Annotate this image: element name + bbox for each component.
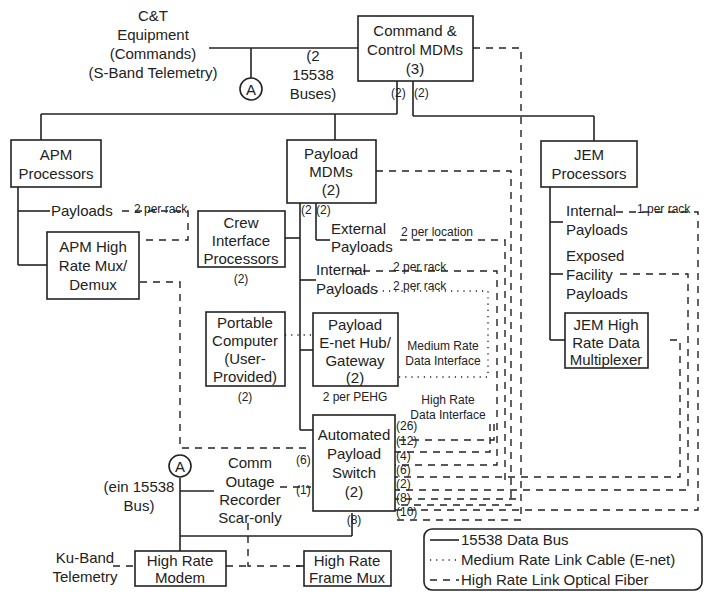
pmdm-line-1: Payload xyxy=(304,145,358,162)
pc-line-4: Provided) xyxy=(213,368,277,385)
pehg-box[interactable]: Payload E-net Hub/ Gateway (2) xyxy=(313,313,398,386)
svg-text:(8): (8) xyxy=(396,491,411,505)
medium-rate-line-1: Medium Rate xyxy=(407,339,479,353)
per-rack-2-label: 2 per rack xyxy=(393,279,447,293)
svg-text:Outage: Outage xyxy=(225,473,274,490)
svg-text:Telemetry: Telemetry xyxy=(52,568,118,585)
svg-text:Recorder: Recorder xyxy=(219,491,281,508)
crew-count-label: (2) xyxy=(234,272,249,286)
fmux-line-1: High Rate xyxy=(314,552,381,569)
svg-text:(Commands): (Commands) xyxy=(110,45,197,62)
aps-port-6-label: (6) xyxy=(296,453,311,467)
jem-exposed-line-3: Payloads xyxy=(566,285,628,302)
crew-interface-box[interactable]: Crew Interface Processors xyxy=(198,211,285,267)
pehg-line-2: E-net Hub/ xyxy=(319,334,392,351)
jem-internal-line-2: Payloads xyxy=(566,221,628,238)
cc-right-count: (2) xyxy=(414,86,429,100)
external-payloads-line-2: Payloads xyxy=(331,238,393,255)
pc-line-3: (User- xyxy=(224,350,266,367)
internal-payloads-line-1: Internal xyxy=(316,261,366,278)
fmux-line-2: Frame Mux xyxy=(309,569,385,586)
apm-mux-line-3: Demux xyxy=(69,276,117,293)
jem-line-2: Processors xyxy=(551,165,626,182)
modem-line-1: High Rate xyxy=(147,552,214,569)
crew-line-1: Crew xyxy=(223,214,258,231)
aps-right-ports: (26) (12) (4) (6) (2) (8) (10) xyxy=(396,419,417,519)
pc-line-2: Computer xyxy=(212,332,278,349)
pmdm-right-count: (2) xyxy=(316,203,331,217)
cc-left-count: (2) xyxy=(391,86,406,100)
aps-line-2: Payload xyxy=(327,445,381,462)
cc-mdms-line-1: Command & xyxy=(373,22,456,39)
jem-exposed-line-1: Exposed xyxy=(566,247,624,264)
svg-text:Comm: Comm xyxy=(228,454,272,471)
svg-text:A: A xyxy=(246,81,256,98)
bus-note-label: (2 15538 Buses) xyxy=(290,47,337,102)
aps-box[interactable]: Automated Payload Switch (2) xyxy=(313,415,395,511)
legend: 15538 Data Bus Medium Rate Link Cable (E… xyxy=(424,529,702,590)
svg-text:(26): (26) xyxy=(396,419,417,433)
jem-hrdm-line-3: Multiplexer xyxy=(570,351,643,368)
apm-line-2: Processors xyxy=(18,165,93,182)
svg-text:Buses): Buses) xyxy=(290,85,337,102)
apm-line-1: APM xyxy=(40,146,73,163)
jem-exposed-line-2: Facility xyxy=(566,266,613,283)
svg-text:(6): (6) xyxy=(396,463,411,477)
apm-processors-box[interactable]: APM Processors xyxy=(11,140,101,187)
hr-frame-mux-box[interactable]: High Rate Frame Mux xyxy=(304,551,391,586)
pmdm-left-count: (2 xyxy=(301,203,312,217)
per-location-label: 2 per location xyxy=(401,225,473,239)
cc-mdms-line-3: (3) xyxy=(406,60,424,77)
connector-a-top: A xyxy=(240,78,262,100)
crew-line-3: Processors xyxy=(203,250,278,267)
high-rate-line-1: High Rate xyxy=(421,393,475,407)
cc-mdms-box[interactable]: Command & Control MDMs (3) xyxy=(358,16,473,81)
svg-text:Scar-only: Scar-only xyxy=(218,509,282,526)
cc-mdms-line-2: Control MDMs xyxy=(367,41,463,58)
pmdm-line-2: MDMs xyxy=(309,163,352,180)
jem-internal-line-1: Internal xyxy=(566,202,616,219)
bus-lines xyxy=(18,48,594,552)
apm-per-rack-label: 2 per rack xyxy=(134,202,188,216)
svg-text:A: A xyxy=(175,458,185,475)
jem-per-rack-label: 1 per rack xyxy=(637,202,691,216)
svg-text:(10): (10) xyxy=(396,505,417,519)
svg-text:(S-Band Telemetry): (S-Band Telemetry) xyxy=(89,64,218,81)
connector-a-bottom: A xyxy=(169,455,191,477)
network-diagram: Command & Control MDMs (3) APM Processor… xyxy=(0,0,706,600)
svg-text:(ein 15538: (ein 15538 xyxy=(104,478,175,495)
svg-text:Ku-Band: Ku-Band xyxy=(56,549,114,566)
svg-text:Equipment: Equipment xyxy=(117,26,190,43)
svg-text:(12): (12) xyxy=(396,434,417,448)
hr-modem-box[interactable]: High Rate Modem xyxy=(135,551,226,586)
modem-line-2: Modem xyxy=(155,569,205,586)
apm-mux-box[interactable]: APM High Rate Mux/ Demux xyxy=(47,232,139,299)
ct-equipment-label: C&T Equipment (Commands) (S-Band Telemet… xyxy=(89,7,218,81)
jem-hrdm-line-1: JEM High xyxy=(573,316,638,333)
ku-band-label: Ku-Band Telemetry xyxy=(52,549,118,585)
per-pehg-label: 2 per PEHG xyxy=(323,390,388,404)
payload-mdms-box[interactable]: Payload MDMs (2) xyxy=(287,140,376,203)
external-payloads-line-1: External xyxy=(331,220,386,237)
high-rate-line-2: Data Interface xyxy=(410,408,486,422)
apm-mux-line-2: Rate Mux/ xyxy=(59,257,128,274)
svg-text:C&T: C&T xyxy=(138,7,168,24)
aps-line-3: Switch xyxy=(332,464,376,481)
crew-line-2: Interface xyxy=(212,232,270,249)
per-rack-1-label: 2 per rack xyxy=(393,260,447,274)
pehg-line-1: Payload xyxy=(328,316,382,333)
internal-payloads-line-2: Payloads xyxy=(316,280,378,297)
svg-text:(2: (2 xyxy=(306,47,319,64)
svg-text:Bus): Bus) xyxy=(124,497,155,514)
jem-hrdm-line-2: Rate Data xyxy=(572,334,640,351)
portable-computer-box[interactable]: Portable Computer (User- Provided) xyxy=(206,312,285,386)
legend-item-bus: 15538 Data Bus xyxy=(461,531,569,548)
pehg-line-4: (2) xyxy=(346,369,364,386)
jem-hrdm-box[interactable]: JEM High Rate Data Multiplexer xyxy=(565,313,648,368)
svg-text:(4): (4) xyxy=(396,449,411,463)
aps-port-bottom-label: (8) xyxy=(347,513,362,527)
jem-processors-box[interactable]: JEM Processors xyxy=(541,141,637,187)
medium-rate-line-2: Data Interface xyxy=(405,354,481,368)
legend-item-fiber: High Rate Link Optical Fiber xyxy=(461,571,649,588)
svg-text:(2): (2) xyxy=(396,477,411,491)
